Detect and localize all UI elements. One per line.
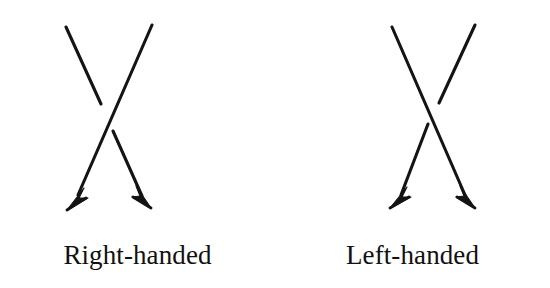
arrowhead-southwest bbox=[67, 188, 88, 210]
figure-root: Right-handed bbox=[0, 0, 550, 288]
over-strand-line bbox=[392, 27, 465, 195]
under-strand-lower-segment bbox=[113, 131, 142, 196]
under-strand-upper-segment bbox=[66, 27, 101, 104]
diagram-panel-left-handed: Left-handed bbox=[275, 0, 550, 288]
caption-right-handed: Right-handed bbox=[0, 238, 275, 272]
arrowhead-southeast bbox=[132, 186, 151, 208]
diagram-panel-right-handed: Right-handed bbox=[0, 0, 275, 288]
over-strand-line bbox=[78, 25, 152, 195]
under-strand-lower-segment bbox=[401, 124, 428, 195]
under-strand-upper-segment bbox=[439, 25, 475, 103]
arrowhead-southwest bbox=[390, 187, 411, 208]
left-handed-crossing-svg bbox=[275, 0, 550, 230]
caption-left-handed: Left-handed bbox=[275, 238, 550, 272]
arrowhead-southeast bbox=[456, 186, 475, 208]
over-strand-northeast-to-southwest bbox=[67, 25, 152, 210]
right-handed-crossing-svg bbox=[0, 0, 275, 230]
